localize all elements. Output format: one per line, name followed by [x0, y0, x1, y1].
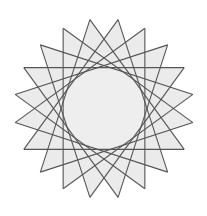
star-polygon-diagram — [0, 0, 207, 216]
inner-circle — [63, 68, 145, 150]
